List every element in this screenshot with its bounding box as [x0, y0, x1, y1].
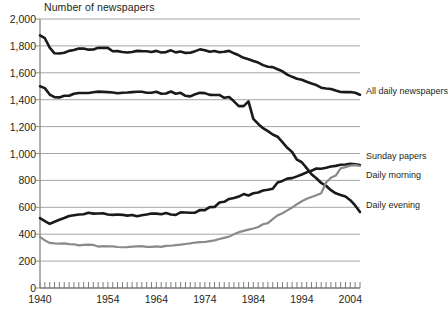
y-axis-tick-label: 1,800 [2, 41, 36, 51]
y-axis-tick-label: 1,000 [2, 149, 36, 159]
series-line [40, 35, 360, 94]
series-label: Sunday papers [366, 151, 427, 161]
x-axis-tick-label: 1994 [290, 293, 313, 305]
y-axis-tick-label: 400 [2, 229, 36, 239]
y-axis-tick-label: 0 [2, 283, 36, 293]
series-label: Daily evening [366, 200, 420, 210]
y-axis-tick-label: 600 [2, 202, 36, 212]
y-axis-labels: 02004006008001,0001,2001,4001,6001,8002,… [0, 0, 36, 312]
x-axis-tick-label: 1984 [242, 293, 265, 305]
y-axis-tick-label: 200 [2, 256, 36, 266]
series-label: All daily newspapers [366, 86, 448, 96]
chart-title: Number of newspapers [44, 1, 155, 13]
newspapers-line-chart: Number of newspapers 02004006008001,0001… [0, 0, 448, 312]
y-axis-tick-label: 1,600 [2, 68, 36, 78]
x-axis-tick-label: 1954 [96, 293, 119, 305]
x-axis-tick-label: 1940 [28, 293, 51, 305]
series-line [40, 165, 360, 247]
y-axis-tick-label: 800 [2, 175, 36, 185]
series-line [40, 86, 360, 212]
y-axis-tick-label: 1,200 [2, 122, 36, 132]
y-axis-tick-label: 1,400 [2, 95, 36, 105]
x-axis-ticks [40, 282, 360, 288]
series-label: Daily morning [366, 170, 421, 180]
y-axis-tick-label: 2,000 [2, 14, 36, 24]
x-axis-tick-label: 1974 [193, 293, 216, 305]
series-lines [40, 35, 360, 247]
x-axis-tick-label: 2004 [339, 293, 362, 305]
x-axis-tick-label: 1964 [145, 293, 168, 305]
gridlines [36, 19, 360, 288]
